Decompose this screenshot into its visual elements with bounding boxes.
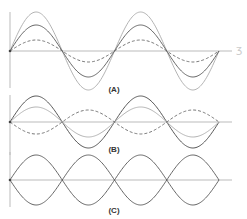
wave-diagram	[0, 0, 247, 219]
wave-lower-curve	[10, 180, 219, 205]
origin-dot	[9, 179, 12, 182]
origin-dot	[9, 121, 12, 124]
panel-b-label: (B)	[108, 145, 119, 154]
panel-b	[9, 95, 232, 155]
panel-a-label: (A)	[108, 85, 119, 94]
wave-upper-curve	[10, 155, 219, 180]
annotation-mark: ʒ	[236, 43, 242, 56]
origin-dot	[9, 50, 12, 53]
panel-c-label: (C)	[108, 206, 119, 215]
panel-a	[9, 12, 232, 90]
panel-c	[9, 152, 232, 207]
